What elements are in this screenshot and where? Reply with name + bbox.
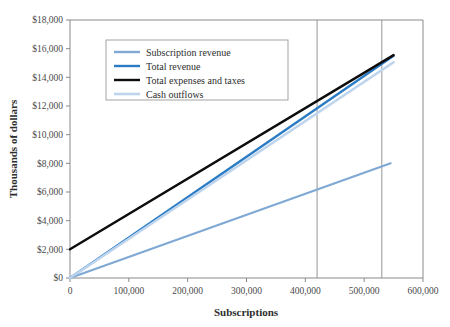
- y-axis-title: Thousands of dollars: [7, 99, 19, 198]
- line-chart: $0$2,000$4,000$6,000$8,000$10,000$12,000…: [0, 0, 450, 327]
- x-tick-label: 600,000: [408, 286, 439, 296]
- x-tick-label: 500,000: [349, 286, 380, 296]
- y-tick-label: $14,000: [32, 73, 63, 83]
- legend-label-3: Total expenses and taxes: [146, 75, 245, 86]
- x-axis-ticks: [70, 278, 423, 282]
- y-tick-label: $4,000: [37, 216, 63, 226]
- chart-legend: Subscription revenueTotal revenueTotal e…: [106, 40, 288, 100]
- x-tick-label: 400,000: [290, 286, 321, 296]
- y-tick-label: $12,000: [32, 101, 63, 111]
- x-tick-label: 300,000: [231, 286, 262, 296]
- chart-container: $0$2,000$4,000$6,000$8,000$10,000$12,000…: [0, 0, 450, 327]
- y-tick-label: $8,000: [37, 159, 63, 169]
- y-axis-tick-labels: $0$2,000$4,000$6,000$8,000$10,000$12,000…: [32, 15, 63, 283]
- legend-label-1: Subscription revenue: [146, 47, 231, 58]
- x-axis-tick-labels: 0100,000200,000300,000400,000500,000600,…: [68, 286, 439, 296]
- x-axis-title: Subscriptions: [214, 306, 279, 318]
- y-axis-ticks: [66, 20, 70, 278]
- legend-label-2: Total revenue: [146, 61, 201, 72]
- x-tick-label: 200,000: [172, 286, 203, 296]
- y-tick-label: $16,000: [32, 44, 63, 54]
- y-tick-label: $2,000: [37, 245, 63, 255]
- y-tick-label: $6,000: [37, 187, 63, 197]
- legend-label-4: Cash outflows: [146, 89, 204, 100]
- y-tick-label: $10,000: [32, 130, 63, 140]
- x-tick-label: 0: [68, 286, 73, 296]
- x-tick-label: 100,000: [113, 286, 144, 296]
- y-tick-label: $0: [54, 273, 64, 283]
- y-tick-label: $18,000: [32, 15, 63, 25]
- reference-lines: [317, 20, 382, 278]
